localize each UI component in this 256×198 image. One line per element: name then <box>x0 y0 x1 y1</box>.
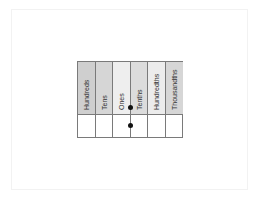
decimal-point-dot-header <box>128 105 133 110</box>
header-cell-tenths: Tenths <box>131 62 149 114</box>
header-cell-hundreds: Hundreds <box>78 62 96 114</box>
value-cell-tens <box>96 115 114 137</box>
value-cell-tenths <box>131 115 149 137</box>
decimal-point-dot-body <box>128 123 133 128</box>
header-cell-tens: Tens <box>96 62 114 114</box>
value-cell-hundredths <box>148 115 166 137</box>
header-cell-hundredths: Hundredths <box>148 62 166 114</box>
value-cell-hundreds <box>78 115 96 137</box>
column-label: Hundreds <box>83 80 91 110</box>
header-cell-thousandths: Thousandths <box>166 62 184 114</box>
column-label: Thousandths <box>171 70 179 110</box>
column-label: Tens <box>101 95 109 110</box>
column-label: Tenths <box>136 89 144 110</box>
place-value-chart: Hundreds Tens Ones Tenths Hundredths Tho… <box>77 61 183 138</box>
column-label: Ones <box>118 93 126 110</box>
column-label: Hundredths <box>153 74 161 110</box>
value-cell-thousandths <box>166 115 184 137</box>
